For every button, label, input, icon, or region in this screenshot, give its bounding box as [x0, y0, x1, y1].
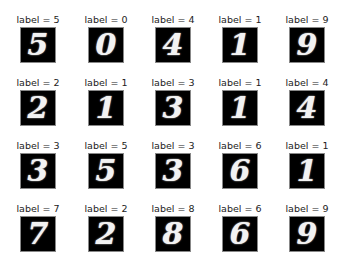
digit-glyph: 1	[230, 30, 251, 60]
digit-image: 5	[88, 153, 124, 189]
panel-title: label = 4	[143, 14, 203, 25]
digit-glyph: 2	[28, 93, 49, 123]
panel-title: label = 4	[277, 77, 337, 88]
digit-image: 3	[155, 90, 191, 126]
panel-title: label = 1	[277, 140, 337, 151]
digit-image: 1	[88, 90, 124, 126]
digit-image: 5	[20, 27, 56, 63]
digit-image: 2	[88, 216, 124, 252]
panel-title: label = 3	[143, 140, 203, 151]
digit-glyph: 4	[297, 93, 318, 123]
digit-image: 7	[20, 216, 56, 252]
panel-title: label = 1	[210, 77, 270, 88]
panel-title: label = 9	[277, 14, 337, 25]
digit-glyph: 1	[230, 93, 251, 123]
panel-title: label = 3	[143, 77, 203, 88]
digit-glyph: 6	[230, 156, 251, 186]
digit-image: 1	[222, 90, 258, 126]
panel-title: label = 6	[210, 140, 270, 151]
digit-glyph: 8	[163, 219, 184, 249]
digit-glyph: 3	[163, 93, 184, 123]
digit-glyph: 9	[297, 30, 318, 60]
digit-glyph: 4	[163, 30, 184, 60]
panel-title: label = 1	[210, 14, 270, 25]
digit-image: 3	[155, 153, 191, 189]
digit-glyph: 1	[297, 156, 318, 186]
digit-glyph: 5	[96, 156, 117, 186]
digit-glyph: 3	[163, 156, 184, 186]
panel-title: label = 6	[210, 203, 270, 214]
panel-title: label = 2	[76, 203, 136, 214]
digit-image: 8	[155, 216, 191, 252]
digit-glyph: 9	[297, 219, 318, 249]
digit-glyph: 6	[230, 219, 251, 249]
digit-image: 9	[289, 27, 325, 63]
panel-title: label = 8	[143, 203, 203, 214]
digit-image: 1	[289, 153, 325, 189]
digit-image: 1	[222, 27, 258, 63]
digit-glyph: 3	[28, 156, 49, 186]
digit-image: 9	[289, 216, 325, 252]
panel-title: label = 1	[76, 77, 136, 88]
digit-image: 0	[88, 27, 124, 63]
panel-title: label = 3	[8, 140, 68, 151]
digit-image: 6	[222, 216, 258, 252]
panel-title: label = 2	[8, 77, 68, 88]
panel-title: label = 7	[8, 203, 68, 214]
panel-title: label = 0	[76, 14, 136, 25]
digit-image: 3	[20, 153, 56, 189]
digit-image: 4	[289, 90, 325, 126]
digit-glyph: 1	[96, 93, 117, 123]
digit-glyph: 7	[28, 219, 49, 249]
digit-glyph: 5	[28, 30, 49, 60]
panel-title: label = 9	[277, 203, 337, 214]
panel-title: label = 5	[76, 140, 136, 151]
digit-image: 2	[20, 90, 56, 126]
digit-glyph: 2	[96, 219, 117, 249]
digit-image: 6	[222, 153, 258, 189]
digit-image: 4	[155, 27, 191, 63]
panel-title: label = 5	[8, 14, 68, 25]
digit-glyph: 0	[96, 30, 117, 60]
